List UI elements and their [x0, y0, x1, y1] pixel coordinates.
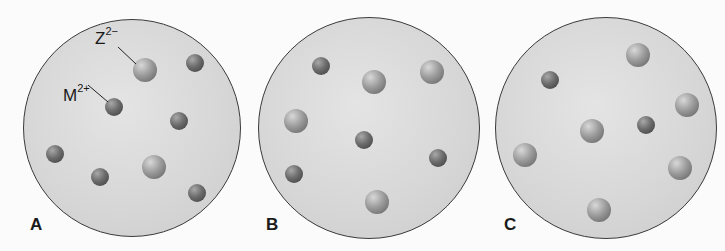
ion-diagram: Z2− M2+ A B C	[0, 0, 725, 251]
panel-label-b: B	[266, 215, 278, 235]
m-ion-label: M2+	[63, 84, 90, 106]
panel-label-a: A	[30, 215, 42, 235]
panel-label-c: C	[504, 215, 516, 235]
z-ion-label: Z2−	[95, 27, 118, 49]
